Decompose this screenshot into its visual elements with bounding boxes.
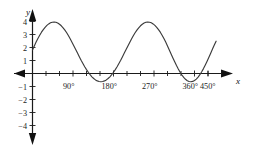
x-axis-left-arrowhead xyxy=(14,70,25,78)
y-tick-label-3: 3 xyxy=(23,31,27,40)
sinusoid-plot: 90° 180° 270° 360° 450° 4 3 2 1 −1 −2 −3… xyxy=(0,0,254,147)
x-tick-label-270: 270° xyxy=(142,82,158,91)
x-axis-label: x xyxy=(235,76,240,86)
x-tick-label-450: 450° xyxy=(200,82,216,91)
y-tick-label-neg1: −1 xyxy=(18,83,27,92)
sinusoid-curve xyxy=(33,22,217,82)
y-tick-label-4: 4 xyxy=(23,18,27,27)
y-tick-label-neg3: −3 xyxy=(18,109,27,118)
y-axis-bottom-arrowhead xyxy=(29,133,36,145)
y-tick-label-1: 1 xyxy=(23,57,27,66)
x-tick-label-360: 360° xyxy=(183,82,199,91)
y-tick-label-2: 2 xyxy=(23,44,27,53)
y-tick-label-neg2: −2 xyxy=(18,96,27,105)
x-tick-label-90: 90° xyxy=(63,82,74,91)
x-axis-right-arrowhead xyxy=(221,70,233,78)
graph-figure: 90° 180° 270° 360° 450° 4 3 2 1 −1 −2 −3… xyxy=(0,0,254,147)
y-tick-label-neg4: −4 xyxy=(18,122,27,131)
x-tick-label-180: 180° xyxy=(102,82,118,91)
y-axis-label: y xyxy=(25,7,30,17)
